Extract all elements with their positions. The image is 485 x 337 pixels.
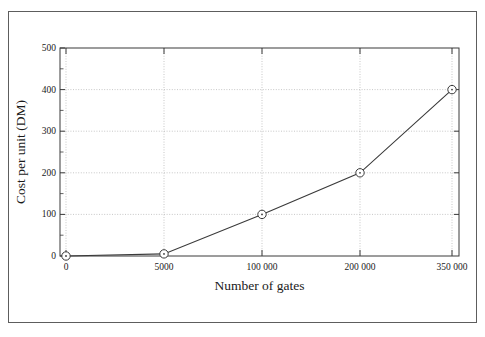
xtick-label-0: 0 [64, 262, 69, 272]
data-point-5000 [160, 250, 168, 258]
data-point-350000 [448, 85, 456, 93]
plot-area-background [60, 48, 459, 256]
ytick-label-100: 100 [34, 209, 56, 219]
ytick-label-200: 200 [34, 168, 56, 178]
ytick-label-0: 0 [34, 251, 56, 261]
x-axis-title: Number of gates [60, 278, 459, 294]
xtick-label-100000: 100 000 [247, 262, 278, 272]
figure-page: 500 400 300 200 100 0 0 5000 100 000 200… [0, 0, 485, 337]
xtick-label-350000: 350 000 [437, 262, 468, 272]
data-point-100000 [258, 210, 266, 218]
ytick-label-300: 300 [34, 126, 56, 136]
y-axis-title: Cost per unit (DM) [13, 100, 29, 204]
data-point-0 [62, 252, 70, 260]
ytick-label-500: 500 [34, 43, 56, 53]
data-point-200000 [356, 169, 364, 177]
xtick-label-5000: 5000 [155, 262, 174, 272]
xtick-label-200000: 200 000 [345, 262, 376, 272]
ytick-label-400: 400 [34, 85, 56, 95]
